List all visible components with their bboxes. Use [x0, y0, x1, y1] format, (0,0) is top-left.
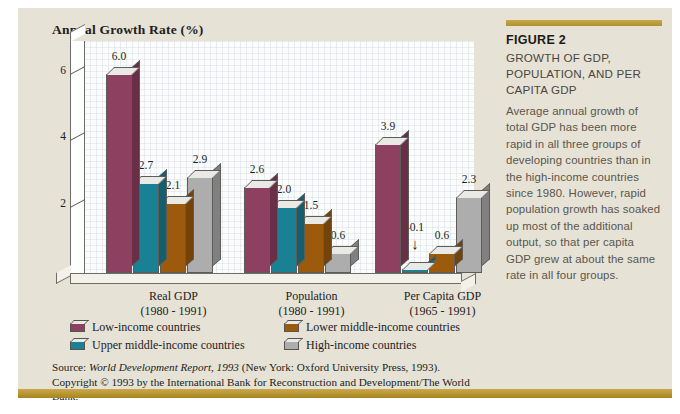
y-tick-2: 2: [68, 198, 85, 207]
plot-area: 642 6.02.72.12.92.62.01.50.63.9-0.1↓0.62…: [70, 41, 474, 273]
figure-number: FIGURE 2: [506, 33, 566, 47]
y-tick-4: 4: [68, 131, 85, 140]
bar-value-label: 2.1: [166, 179, 180, 191]
y-tick-label: 6: [52, 64, 66, 76]
bar-value-label: 2.6: [250, 163, 264, 175]
bar: 3.9: [375, 144, 401, 273]
bar-value-label: 3.9: [381, 120, 395, 132]
figure-card: Annual Growth Rate (%) 642 6.02.72.12.92…: [18, 8, 672, 398]
bar-value-label: 6.0: [112, 50, 126, 62]
source-prefix: Source:: [52, 361, 89, 373]
legend-item-label: Lower middle-income countries: [306, 320, 460, 335]
legend-item-label: Upper middle-income countries: [92, 338, 245, 353]
bar-front-face: [244, 187, 270, 273]
figure-body-text: Average annual growth of total GDP has b…: [506, 103, 662, 283]
bar-side-face: [213, 163, 221, 266]
legend-color-swatch: [284, 323, 299, 332]
bar: 2.6: [244, 187, 270, 273]
chart-floor: [56, 273, 476, 285]
y-tick-label: 2: [52, 197, 66, 209]
bar-side-face: [401, 130, 409, 266]
bar-front-face: [106, 74, 132, 273]
legend-color-swatch: [284, 341, 299, 350]
y-axis-wall: [70, 41, 85, 273]
bar-side-face: [132, 60, 140, 266]
chart-region: Annual Growth Rate (%) 642 6.02.72.12.92…: [18, 8, 492, 389]
floor-left-bevel: [56, 265, 71, 284]
legend-item: Lower middle-income countries: [284, 320, 460, 335]
bar-value-label: 2.7: [139, 159, 153, 171]
caption-panel: FIGURE 2 GROWTH OF GDP, POPULATION, AND …: [492, 8, 672, 389]
bar-value-label: 2.3: [462, 173, 476, 185]
legend-color-swatch: [70, 323, 85, 332]
legend-item: Low-income countries: [70, 320, 200, 335]
bar-value-label: 0.6: [331, 229, 345, 241]
floor-face: [70, 273, 462, 284]
y-tick-label: 4: [52, 130, 66, 142]
legend-item-label: Low-income countries: [92, 320, 200, 335]
bar-value-label: 1.5: [304, 199, 318, 211]
legend-item: Upper middle-income countries: [70, 338, 245, 353]
card-bottom-rule: [18, 389, 672, 398]
bar: [402, 269, 428, 273]
bar: 6.0: [106, 74, 132, 273]
bar-value-label: 2.0: [277, 183, 291, 195]
bar-front-face: [375, 144, 401, 273]
source-title: World Development Report, 1993: [89, 361, 239, 373]
legend-color-swatch: [70, 341, 85, 350]
y-tick-6: 6: [68, 65, 85, 74]
figure-heading: GROWTH OF GDP, POPULATION, AND PER CAPIT…: [506, 50, 664, 98]
caption-top-rule: [506, 20, 662, 26]
legend-item-label: High-income countries: [306, 338, 416, 353]
legend-item: High-income countries: [284, 338, 416, 353]
bar-side-face: [159, 169, 167, 266]
bar-value-label: 0.6: [435, 229, 449, 241]
bar-value-label: 2.9: [193, 153, 207, 165]
